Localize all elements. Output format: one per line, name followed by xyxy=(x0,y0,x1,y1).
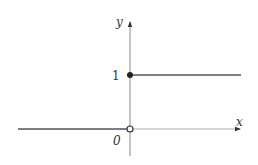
closed-endpoint-dot xyxy=(127,72,133,78)
open-endpoint-dot xyxy=(127,126,133,132)
origin-label: 0 xyxy=(113,134,121,148)
y-axis-label: y xyxy=(115,15,123,29)
step-function-graph: y x 1 0 xyxy=(0,0,258,165)
tick-label-one: 1 xyxy=(112,69,120,83)
x-axis-label: x xyxy=(236,115,243,129)
